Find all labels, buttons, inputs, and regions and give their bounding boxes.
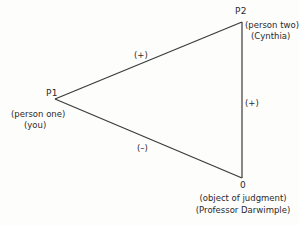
node-p1-role: (person one)	[11, 109, 65, 120]
node-p2-id: P2	[235, 6, 247, 17]
edge-p2-o-sign: (+)	[245, 98, 259, 109]
node-p2-role: (person two)	[245, 20, 299, 31]
node-p1-id: P1	[46, 88, 58, 99]
edge-p1-o-sign: (–)	[137, 143, 148, 154]
node-p2-name: (Cynthia)	[251, 31, 290, 42]
edge-p1-o	[55, 99, 242, 178]
edge-p1-p2-sign: (+)	[134, 50, 148, 61]
node-p1-name: (you)	[24, 120, 46, 131]
node-o-name: (Professor Darwimple)	[196, 205, 290, 216]
edge-p1-p2	[55, 22, 242, 99]
node-o-role: (object of judgment)	[199, 193, 286, 204]
node-o-id: 0	[240, 180, 246, 191]
